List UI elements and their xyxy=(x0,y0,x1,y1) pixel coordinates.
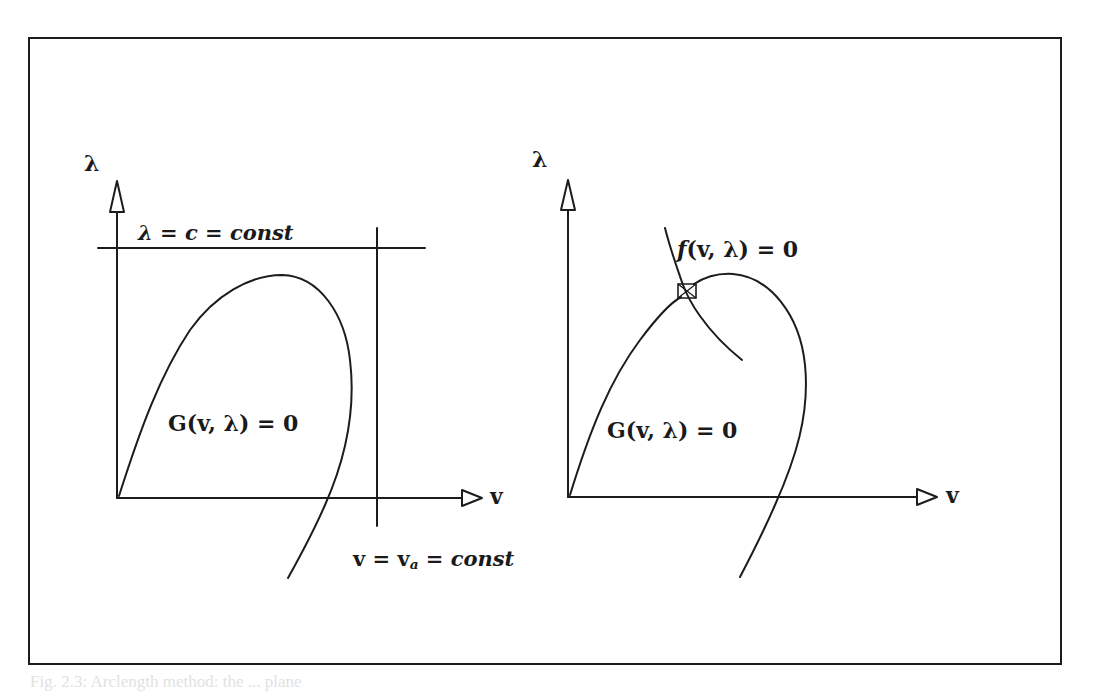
left-lambda-axis-label: λ xyxy=(84,152,99,174)
right-v-axis-label: v xyxy=(946,484,959,506)
right-v-axis-arrow-icon xyxy=(917,489,937,505)
right-curve-label: G(v, λ) = 0 xyxy=(607,419,737,441)
lambda-constant-label: λ = c = const xyxy=(138,222,294,243)
constraint-curve-label-rest: (v, λ) = 0 xyxy=(686,236,798,262)
v-constant-label-tail: = const xyxy=(418,546,514,571)
left-lambda-axis-arrow-icon xyxy=(110,181,124,212)
constraint-curve-label: f(v, λ) = 0 xyxy=(677,238,798,260)
right-lambda-axis-arrow-icon xyxy=(561,180,575,210)
lambda-constant-label-text: λ = c = const xyxy=(138,220,294,245)
left-curve-label: G(v, λ) = 0 xyxy=(168,412,298,434)
v-constant-label-main: v = v xyxy=(353,546,410,571)
right-lambda-axis-label: λ xyxy=(532,148,547,170)
v-constant-label: v = va = const xyxy=(353,548,514,572)
bleed-through-caption: Fig. 2.3: Arclength method: the ... plan… xyxy=(30,672,302,692)
left-v-axis-arrow-icon xyxy=(462,490,482,506)
left-v-axis-label: v xyxy=(490,485,503,507)
